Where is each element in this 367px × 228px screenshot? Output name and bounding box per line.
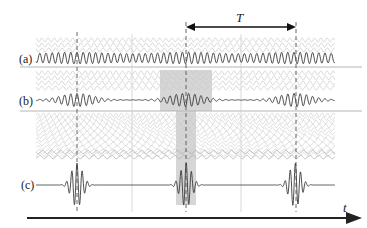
time-axis-label: t	[343, 202, 347, 214]
row-label-c: (c)	[21, 179, 34, 191]
time-axis-arrow	[27, 212, 362, 224]
row-label-a: (a)	[19, 53, 32, 65]
mode-locking-diagram	[0, 0, 367, 228]
row-label-b: (b)	[19, 95, 33, 107]
period-label: T	[236, 12, 243, 24]
